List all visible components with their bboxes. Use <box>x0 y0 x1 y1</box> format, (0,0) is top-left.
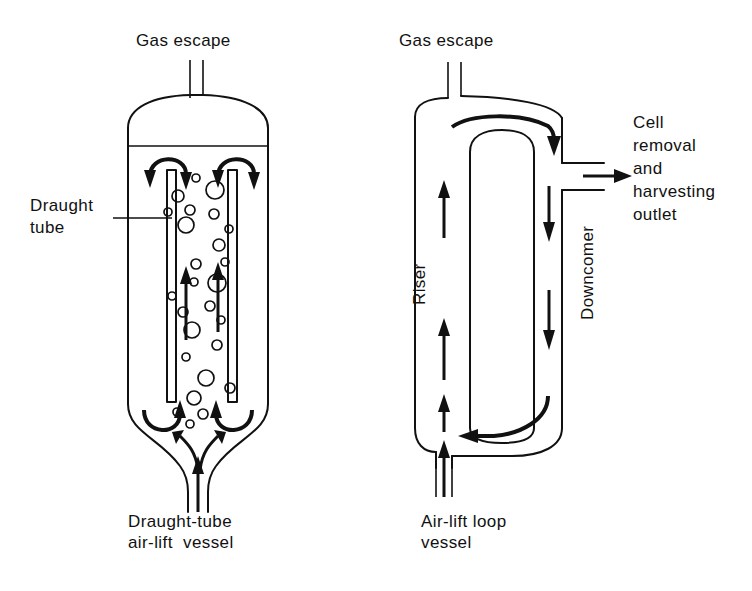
right-caption-line2: vessel <box>421 532 472 553</box>
outlet-label-line5: outlet <box>633 205 677 225</box>
gas-bubble <box>206 181 224 199</box>
right-riser-arrows <box>438 180 450 380</box>
right-vessel-group <box>415 62 632 497</box>
gas-bubble <box>186 420 194 428</box>
gas-bubble <box>192 174 200 182</box>
gas-bubble <box>198 409 208 419</box>
gas-bubble <box>225 383 235 393</box>
outlet-label-line2: removal <box>633 136 696 156</box>
gas-bubble <box>191 259 201 269</box>
right-top-loop-arrow <box>452 116 561 156</box>
left-vessel-shell <box>128 95 268 512</box>
outlet-label-line3: and <box>633 159 663 179</box>
draught-tube <box>167 170 237 402</box>
riser-label: Riser <box>410 263 430 305</box>
left-gas-escape-pipe <box>190 60 203 98</box>
diagram-canvas <box>0 0 752 591</box>
gas-bubble <box>187 391 201 405</box>
right-downcomer-arrows <box>543 186 555 350</box>
gas-bubble <box>178 217 194 233</box>
gas-bubble <box>168 292 176 300</box>
downcomer-label: Downcomer <box>578 226 598 320</box>
gas-bubble <box>209 209 219 219</box>
draught-tube-label-line2: tube <box>30 218 65 238</box>
draught-tube-label-line1: Draught <box>30 196 93 216</box>
left-gas-escape-label: Gas escape <box>136 31 231 51</box>
right-gas-inlet-arrow <box>438 394 450 497</box>
left-vessel-group <box>113 60 268 512</box>
left-caption-line1: Draught-tube <box>128 511 232 532</box>
right-gas-escape-pipe <box>448 62 461 98</box>
left-bubble-field <box>164 174 235 428</box>
gas-bubble <box>213 239 225 251</box>
right-caption-line1: Air-lift loop <box>421 511 507 532</box>
right-inner-baffle <box>470 130 534 443</box>
gas-bubble <box>172 190 184 202</box>
gas-bubble <box>198 370 214 386</box>
outlet-label-line1: Cell <box>633 113 664 133</box>
left-caption-line2: air-lift vessel <box>128 532 234 553</box>
left-top-circulation-arrows <box>144 159 260 190</box>
right-outlet-arrow <box>583 169 632 183</box>
bioreactor-figure: Gas escape Draught tube Draught-tube air… <box>0 0 752 591</box>
right-gas-escape-label: Gas escape <box>399 31 494 51</box>
gas-bubble <box>182 353 190 361</box>
gas-bubble <box>185 205 195 215</box>
gas-bubble <box>205 301 215 311</box>
gas-bubble <box>212 340 222 350</box>
outlet-label-line4: harvesting <box>633 182 715 202</box>
